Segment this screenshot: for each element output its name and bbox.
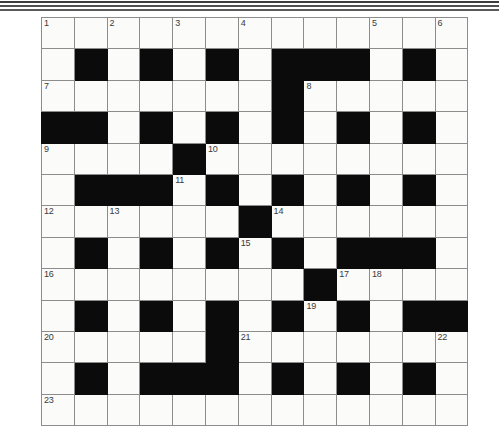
crossword-open-cell[interactable] bbox=[74, 18, 107, 49]
crossword-open-cell[interactable] bbox=[402, 331, 435, 362]
crossword-open-cell[interactable]: 10 bbox=[205, 143, 238, 174]
crossword-open-cell[interactable] bbox=[238, 143, 271, 174]
crossword-open-cell[interactable] bbox=[304, 394, 337, 425]
crossword-open-cell[interactable] bbox=[107, 143, 140, 174]
crossword-open-cell[interactable]: 18 bbox=[369, 269, 402, 300]
crossword-open-cell[interactable] bbox=[140, 394, 173, 425]
crossword-open-cell[interactable] bbox=[369, 143, 402, 174]
crossword-open-cell[interactable] bbox=[140, 331, 173, 362]
crossword-open-cell[interactable] bbox=[435, 174, 468, 205]
crossword-open-cell[interactable] bbox=[304, 18, 337, 49]
crossword-open-cell[interactable] bbox=[402, 80, 435, 111]
crossword-open-cell[interactable] bbox=[304, 331, 337, 362]
crossword-open-cell[interactable] bbox=[337, 206, 370, 237]
crossword-open-cell[interactable]: 6 bbox=[435, 18, 468, 49]
crossword-open-cell[interactable] bbox=[304, 206, 337, 237]
crossword-open-cell[interactable] bbox=[107, 300, 140, 331]
crossword-open-cell[interactable] bbox=[107, 363, 140, 394]
crossword-open-cell[interactable] bbox=[337, 80, 370, 111]
crossword-open-cell[interactable] bbox=[238, 49, 271, 80]
crossword-open-cell[interactable] bbox=[238, 269, 271, 300]
crossword-open-cell[interactable] bbox=[107, 269, 140, 300]
crossword-open-cell[interactable] bbox=[140, 143, 173, 174]
crossword-open-cell[interactable] bbox=[42, 174, 75, 205]
crossword-open-cell[interactable]: 14 bbox=[271, 206, 304, 237]
crossword-open-cell[interactable] bbox=[402, 269, 435, 300]
crossword-open-cell[interactable] bbox=[435, 143, 468, 174]
crossword-open-cell[interactable] bbox=[173, 300, 206, 331]
crossword-grid[interactable]: 1234567891011121314151617181920212223 bbox=[41, 17, 468, 426]
crossword-open-cell[interactable] bbox=[369, 80, 402, 111]
crossword-open-cell[interactable] bbox=[435, 269, 468, 300]
crossword-open-cell[interactable]: 3 bbox=[173, 18, 206, 49]
crossword-open-cell[interactable] bbox=[107, 237, 140, 268]
crossword-open-cell[interactable] bbox=[205, 269, 238, 300]
crossword-open-cell[interactable] bbox=[369, 300, 402, 331]
crossword-open-cell[interactable] bbox=[337, 394, 370, 425]
crossword-open-cell[interactable]: 5 bbox=[369, 18, 402, 49]
crossword-open-cell[interactable]: 9 bbox=[42, 143, 75, 174]
crossword-open-cell[interactable]: 17 bbox=[337, 269, 370, 300]
crossword-open-cell[interactable] bbox=[107, 394, 140, 425]
crossword-open-cell[interactable] bbox=[205, 206, 238, 237]
crossword-open-cell[interactable] bbox=[42, 363, 75, 394]
crossword-open-cell[interactable] bbox=[402, 394, 435, 425]
crossword-open-cell[interactable] bbox=[42, 237, 75, 268]
crossword-open-cell[interactable] bbox=[435, 112, 468, 143]
crossword-open-cell[interactable] bbox=[402, 143, 435, 174]
crossword-open-cell[interactable]: 19 bbox=[304, 300, 337, 331]
crossword-open-cell[interactable] bbox=[205, 394, 238, 425]
crossword-open-cell[interactable]: 8 bbox=[304, 80, 337, 111]
crossword-open-cell[interactable] bbox=[369, 363, 402, 394]
crossword-open-cell[interactable]: 2 bbox=[107, 18, 140, 49]
crossword-open-cell[interactable] bbox=[337, 331, 370, 362]
crossword-open-cell[interactable]: 15 bbox=[238, 237, 271, 268]
crossword-open-cell[interactable] bbox=[42, 300, 75, 331]
crossword-open-cell[interactable] bbox=[140, 269, 173, 300]
crossword-open-cell[interactable]: 20 bbox=[42, 331, 75, 362]
crossword-open-cell[interactable]: 13 bbox=[107, 206, 140, 237]
crossword-open-cell[interactable] bbox=[238, 174, 271, 205]
crossword-open-cell[interactable] bbox=[304, 237, 337, 268]
crossword-open-cell[interactable] bbox=[238, 112, 271, 143]
crossword-open-cell[interactable] bbox=[205, 80, 238, 111]
crossword-open-cell[interactable] bbox=[435, 49, 468, 80]
crossword-open-cell[interactable] bbox=[402, 18, 435, 49]
crossword-open-cell[interactable] bbox=[173, 49, 206, 80]
crossword-open-cell[interactable] bbox=[369, 112, 402, 143]
crossword-open-cell[interactable] bbox=[74, 206, 107, 237]
crossword-open-cell[interactable] bbox=[173, 80, 206, 111]
crossword-open-cell[interactable] bbox=[435, 80, 468, 111]
crossword-open-cell[interactable] bbox=[140, 18, 173, 49]
crossword-open-cell[interactable]: 11 bbox=[173, 174, 206, 205]
crossword-open-cell[interactable] bbox=[74, 80, 107, 111]
crossword-open-cell[interactable]: 1 bbox=[42, 18, 75, 49]
crossword-open-cell[interactable] bbox=[435, 394, 468, 425]
crossword-open-cell[interactable]: 23 bbox=[42, 394, 75, 425]
crossword-open-cell[interactable]: 16 bbox=[42, 269, 75, 300]
crossword-open-cell[interactable] bbox=[369, 394, 402, 425]
crossword-open-cell[interactable] bbox=[140, 206, 173, 237]
crossword-open-cell[interactable] bbox=[435, 363, 468, 394]
crossword-open-cell[interactable] bbox=[238, 394, 271, 425]
crossword-open-cell[interactable] bbox=[271, 18, 304, 49]
crossword-open-cell[interactable] bbox=[74, 394, 107, 425]
crossword-open-cell[interactable] bbox=[369, 49, 402, 80]
crossword-open-cell[interactable] bbox=[304, 112, 337, 143]
crossword-open-cell[interactable] bbox=[140, 80, 173, 111]
crossword-open-cell[interactable]: 12 bbox=[42, 206, 75, 237]
crossword-open-cell[interactable] bbox=[42, 49, 75, 80]
crossword-open-cell[interactable] bbox=[173, 112, 206, 143]
crossword-open-cell[interactable] bbox=[304, 174, 337, 205]
crossword-open-cell[interactable] bbox=[271, 331, 304, 362]
crossword-open-cell[interactable]: 21 bbox=[238, 331, 271, 362]
crossword-open-cell[interactable] bbox=[304, 143, 337, 174]
crossword-open-cell[interactable] bbox=[238, 363, 271, 394]
crossword-open-cell[interactable] bbox=[369, 206, 402, 237]
crossword-open-cell[interactable] bbox=[271, 394, 304, 425]
crossword-open-cell[interactable] bbox=[271, 269, 304, 300]
crossword-open-cell[interactable] bbox=[304, 363, 337, 394]
crossword-open-cell[interactable]: 7 bbox=[42, 80, 75, 111]
crossword-open-cell[interactable] bbox=[74, 269, 107, 300]
crossword-open-cell[interactable] bbox=[74, 143, 107, 174]
